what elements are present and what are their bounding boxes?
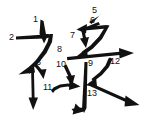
stroke-8-long-horizontal [67, 48, 134, 60]
stroke-number-7: 7 [70, 31, 75, 40]
stroke-number-13: 13 [87, 89, 97, 98]
stroke-number-11: 11 [43, 83, 52, 92]
stroke-2-horizontal-then-sweep-left-radical [16, 34, 53, 75]
stroke-number-4: 4 [26, 67, 31, 76]
stroke-order-canvas [0, 0, 147, 124]
stroke-number-6: 6 [90, 16, 95, 25]
stroke-number-9: 9 [88, 59, 93, 68]
stroke-number-2: 2 [9, 33, 14, 42]
stroke-number-8: 8 [57, 45, 62, 54]
stroke-number-10: 10 [56, 60, 66, 69]
kanji-stroke-order-diagram: 1 2 3 4 5 6 7 8 9 10 11 12 13 [0, 0, 147, 124]
stroke-11-left-sweep-up [51, 81, 81, 94]
stroke-1-short-diagonal-left-radical-top [40, 20, 49, 44]
stroke-number-1: 1 [33, 15, 38, 24]
stroke-number-3: 3 [36, 58, 41, 67]
stroke-number-12: 12 [110, 57, 120, 66]
stroke-number-5: 5 [92, 6, 97, 15]
